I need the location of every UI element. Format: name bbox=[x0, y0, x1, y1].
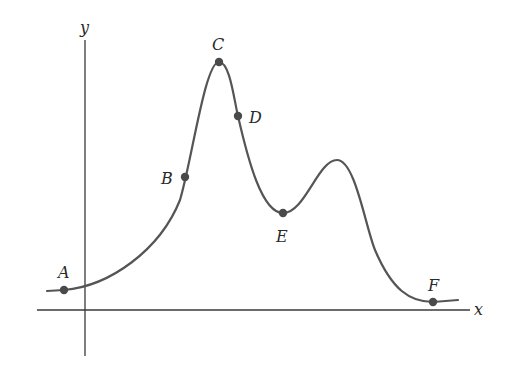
point-e bbox=[279, 209, 287, 217]
point-label-a: A bbox=[56, 263, 70, 282]
point-label-f: F bbox=[427, 276, 440, 295]
point-b bbox=[181, 173, 189, 181]
point-c bbox=[215, 58, 223, 66]
point-d bbox=[234, 112, 242, 120]
point-label-d: D bbox=[248, 108, 262, 127]
point-label-b: B bbox=[160, 169, 173, 188]
point-f bbox=[429, 298, 437, 306]
curve bbox=[47, 62, 458, 302]
point-label-e: E bbox=[275, 227, 288, 246]
point-a bbox=[60, 286, 68, 294]
y-axis-label: y bbox=[79, 18, 90, 37]
x-axis-label: x bbox=[474, 300, 483, 319]
function-graph: x y ABCDEF bbox=[0, 0, 510, 367]
point-label-c: C bbox=[212, 35, 224, 54]
